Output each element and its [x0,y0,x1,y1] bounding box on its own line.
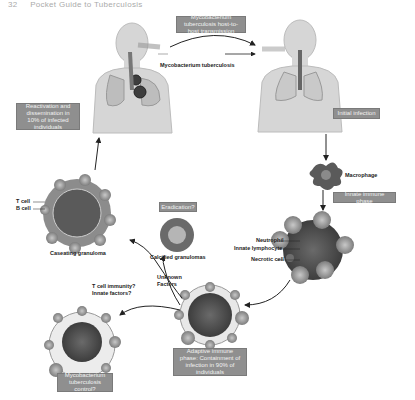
caseating-granuloma-label: Caseating granuloma [50,250,106,256]
reactivation-box: Reactivation and dissemination in 10% of… [16,103,80,130]
control-box: Mycobacterium tuberculosis control? [57,373,113,392]
innate-lymphocyte-label: Innate lymphocyte [234,245,282,251]
exposed-person-figure [258,20,342,132]
initial-infection-box: Initial infection [333,108,380,119]
unknown-factors-label: Unknown Factors [157,274,181,288]
eradication-box: Eradication? [159,202,197,212]
macrophage-cell [309,162,342,190]
calcified-granuloma [160,218,194,252]
t-cell-immunity-label: T cell immunity? Innate factors? [92,283,137,297]
mtb-label: Mycobacterium tuberculosis [160,62,235,68]
necrotic-cell-label: Necrotic cell [251,256,284,262]
infected-person-figure [93,23,172,133]
innate-cell-cluster [271,211,354,284]
transmission-box: Mycobacterium tuberculosis host-to-host … [176,16,246,33]
b-cell-label: B cell [16,205,31,211]
calcified-granulomas-label: Calcified granulomas [150,254,206,260]
innate-phase-box: Innate immune phase [333,192,396,203]
adaptive-phase-box: Adaptive immune phase: Containment of in… [173,348,247,376]
adaptive-granuloma [174,282,249,350]
t-cell-label: T cell [16,198,30,204]
neutrophil-label: Neutrophil [256,237,284,243]
macrophage-label: Macrophage [345,172,377,178]
caseating-granuloma [40,174,116,254]
